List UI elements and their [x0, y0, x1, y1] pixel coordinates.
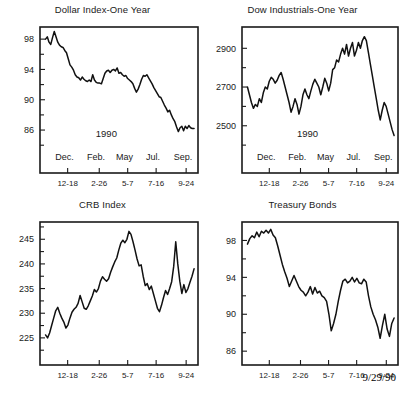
- y-tick-label: 235: [19, 284, 34, 294]
- chart-plot-crb-index: 22523023524024512-182-265-77-169-24: [0, 197, 205, 395]
- x-tick-label: 5-7: [122, 371, 134, 380]
- x-tick-label: 12-18: [259, 371, 280, 380]
- y-tick-label: 2700: [216, 82, 236, 92]
- x-tick-label: 2-26: [91, 179, 108, 188]
- y-tick-label: 86: [226, 346, 236, 356]
- x-month-label: Jul.: [347, 152, 361, 162]
- footer-date: 9/29/90: [362, 371, 396, 383]
- chart-panel-dow-industrials: Dow Industrials-One Year 25002700290012-…: [200, 2, 405, 197]
- y-tick-label: 2900: [216, 44, 236, 54]
- x-month-label: Jul.: [146, 152, 160, 162]
- x-month-label: Sep.: [374, 152, 393, 162]
- y-tick-label: 2500: [216, 121, 236, 131]
- x-tick-label: 9-24: [378, 179, 395, 188]
- data-series-line: [46, 231, 195, 338]
- chart-title-crb-index: CRB Index: [0, 199, 205, 210]
- x-month-label: Feb.: [87, 152, 105, 162]
- y-tick-label: 225: [19, 333, 34, 343]
- x-month-label: May: [317, 152, 335, 162]
- chart-plot-dollar-index: 8690949812-182-265-77-169-24Dec.Feb.MayJ…: [0, 2, 205, 197]
- chart-title-dollar-index: Dollar Index-One Year: [0, 4, 205, 15]
- chart-panel-treasury-bonds: Treasury Bonds 8690949812-182-265-77-169…: [200, 197, 405, 395]
- x-tick-label: 5-7: [122, 179, 134, 188]
- x-tick-label: 2-26: [292, 371, 309, 380]
- y-tick-label: 230: [19, 308, 34, 318]
- year-annotation: 1990: [297, 128, 318, 139]
- data-series-line: [247, 37, 394, 136]
- x-tick-label: 12-18: [259, 179, 280, 188]
- x-tick-label: 9-24: [178, 371, 195, 380]
- y-tick-label: 245: [19, 234, 34, 244]
- x-month-label: Dec.: [55, 152, 74, 162]
- chart-plot-dow-industrials: 25002700290012-182-265-77-169-24Dec.Feb.…: [200, 2, 405, 197]
- y-tick-label: 90: [226, 309, 236, 319]
- chart-title-treasury-bonds: Treasury Bonds: [200, 199, 405, 210]
- x-tick-label: 12-18: [57, 179, 78, 188]
- x-month-label: Dec.: [257, 152, 276, 162]
- x-tick-label: 7-16: [148, 371, 165, 380]
- plot-frame: [40, 222, 198, 365]
- chart-panel-dollar-index: Dollar Index-One Year 8690949812-182-265…: [0, 2, 205, 197]
- x-tick-label: 2-26: [91, 371, 108, 380]
- y-tick-label: 86: [24, 125, 34, 135]
- x-tick-label: 5-7: [323, 371, 335, 380]
- x-tick-label: 12-18: [57, 371, 78, 380]
- financial-charts-figure: Dollar Index-One Year 8690949812-182-265…: [0, 0, 405, 395]
- y-tick-label: 98: [226, 236, 236, 246]
- x-month-label: Feb.: [288, 152, 306, 162]
- y-tick-label: 94: [24, 65, 34, 75]
- y-tick-label: 94: [226, 273, 236, 283]
- year-annotation: 1990: [96, 128, 117, 139]
- x-tick-label: 2-26: [292, 179, 309, 188]
- y-tick-label: 90: [24, 95, 34, 105]
- x-tick-label: 9-24: [178, 179, 195, 188]
- chart-title-dow-industrials: Dow Industrials-One Year: [200, 4, 405, 15]
- x-month-label: May: [116, 152, 134, 162]
- x-month-label: Sep.: [174, 152, 193, 162]
- data-series-line: [247, 229, 394, 338]
- chart-panel-crb-index: CRB Index 22523023524024512-182-265-77-1…: [0, 197, 205, 395]
- chart-plot-treasury-bonds: 8690949812-182-265-77-169-24: [200, 197, 405, 395]
- x-tick-label: 7-16: [148, 179, 165, 188]
- x-tick-label: 7-16: [349, 179, 366, 188]
- data-series-line: [46, 32, 195, 132]
- x-tick-label: 5-7: [323, 179, 335, 188]
- y-tick-label: 240: [19, 259, 34, 269]
- y-tick-label: 98: [24, 34, 34, 44]
